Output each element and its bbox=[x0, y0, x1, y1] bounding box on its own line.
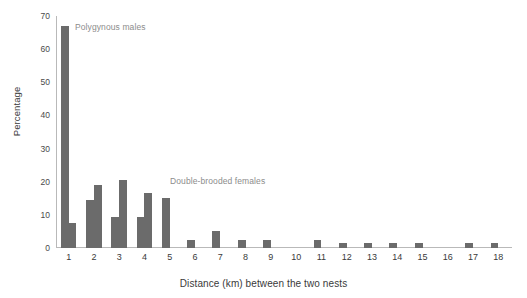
annotation-double-brooded-females: Double-brooded females bbox=[170, 176, 265, 186]
bar bbox=[187, 240, 195, 248]
x-axis-tick-label: 11 bbox=[309, 252, 334, 262]
y-axis-tick-label: 30 bbox=[41, 144, 50, 154]
bar-group bbox=[364, 16, 380, 248]
x-axis-tick-label: 3 bbox=[107, 252, 132, 262]
x-axis-tick-label: 16 bbox=[435, 252, 460, 262]
x-axis-tick-label: 9 bbox=[258, 252, 283, 262]
y-axis-tick-label: 0 bbox=[45, 243, 50, 253]
x-axis-tick-label: 8 bbox=[233, 252, 258, 262]
bar-group bbox=[263, 16, 279, 248]
x-axis-tick-label: 1 bbox=[56, 252, 81, 262]
bar bbox=[86, 200, 94, 248]
bar bbox=[415, 243, 423, 248]
x-axis-tick-label: 2 bbox=[81, 252, 106, 262]
x-axis-tick-label: 4 bbox=[132, 252, 157, 262]
x-axis-tick-label: 7 bbox=[208, 252, 233, 262]
x-axis-tick-label: 15 bbox=[410, 252, 435, 262]
bar bbox=[465, 243, 473, 248]
bar bbox=[69, 223, 77, 248]
bar bbox=[491, 243, 499, 248]
bar-group bbox=[314, 16, 330, 248]
x-axis-tick-label: 18 bbox=[486, 252, 511, 262]
x-axis-tick-label: 13 bbox=[359, 252, 384, 262]
bar bbox=[314, 240, 322, 248]
y-axis-tick-label: 70 bbox=[41, 11, 50, 21]
y-axis-tick-label: 60 bbox=[41, 44, 50, 54]
annotation-polygynous-males: Polygynous males bbox=[75, 22, 146, 32]
plot-area bbox=[56, 16, 511, 248]
bar-group bbox=[415, 16, 431, 248]
bar-group bbox=[212, 16, 228, 248]
bar bbox=[144, 193, 152, 248]
y-axis-title: Percentage bbox=[11, 62, 22, 162]
bar bbox=[119, 180, 127, 248]
bar bbox=[162, 198, 170, 248]
bar bbox=[263, 240, 271, 248]
x-axis-tick-label: 5 bbox=[157, 252, 182, 262]
bar-group bbox=[339, 16, 355, 248]
bar bbox=[61, 26, 69, 248]
bar bbox=[339, 243, 347, 248]
bar-group bbox=[440, 16, 456, 248]
y-axis-tick-label: 20 bbox=[41, 177, 50, 187]
bar bbox=[212, 231, 220, 248]
bar-group bbox=[238, 16, 254, 248]
bar-group bbox=[491, 16, 507, 248]
bar-group bbox=[86, 16, 102, 248]
bar bbox=[389, 243, 397, 248]
x-axis-tick-label: 14 bbox=[385, 252, 410, 262]
bar-group bbox=[111, 16, 127, 248]
bar-group bbox=[389, 16, 405, 248]
bar bbox=[137, 217, 145, 248]
x-axis-tick-label: 17 bbox=[460, 252, 485, 262]
x-axis-tick-label: 10 bbox=[284, 252, 309, 262]
bar-group bbox=[61, 16, 77, 248]
bar bbox=[94, 185, 102, 248]
bar bbox=[111, 217, 119, 248]
bar-group bbox=[137, 16, 153, 248]
bar-group bbox=[288, 16, 304, 248]
bar-group bbox=[187, 16, 203, 248]
y-axis-tick-label: 40 bbox=[41, 110, 50, 120]
x-axis-tick-label: 6 bbox=[182, 252, 207, 262]
bar bbox=[364, 243, 372, 248]
bar-chart: Percentage 010203040506070 1234567891011… bbox=[0, 0, 527, 298]
bar-group bbox=[162, 16, 178, 248]
y-axis-tick-label: 50 bbox=[41, 77, 50, 87]
bar-group bbox=[465, 16, 481, 248]
y-axis-tick-label: 10 bbox=[41, 210, 50, 220]
x-axis-tick-label: 12 bbox=[334, 252, 359, 262]
x-axis-title: Distance (km) between the two nests bbox=[0, 278, 527, 289]
bar bbox=[238, 240, 246, 248]
